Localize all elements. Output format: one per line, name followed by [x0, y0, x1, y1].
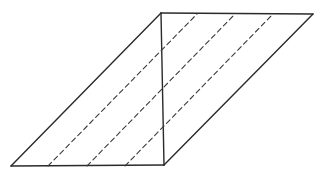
- right-edge: [164, 14, 313, 165]
- dashed-line-3: [125, 15, 272, 166]
- dashed-line-1: [48, 14, 197, 166]
- left-edge: [11, 13, 161, 166]
- top-edge: [161, 13, 313, 14]
- parallelogram-diagram: [0, 0, 331, 175]
